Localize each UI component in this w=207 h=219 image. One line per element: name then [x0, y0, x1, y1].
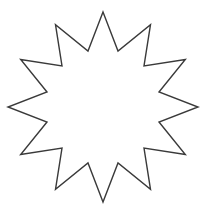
twelve-point-star-shape [8, 12, 198, 202]
diagram-canvas [0, 0, 207, 219]
